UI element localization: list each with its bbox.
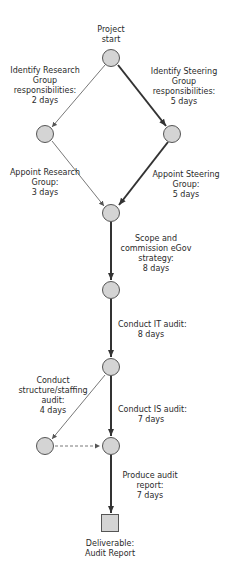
label-it-audit: Conduct IT audit: 8 days [118, 320, 184, 340]
node-research-group [36, 125, 54, 143]
label-is-audit: Conduct IS audit: 7 days [118, 405, 184, 425]
node-merge [102, 204, 120, 222]
label-produce-report: Produce audit report: 7 days [122, 471, 178, 501]
label-identify-steering: Identify Steering Group responsibilities… [143, 67, 225, 107]
label-identify-research: Identify Research Group responsibilities… [5, 66, 85, 106]
node-steering-group [163, 125, 181, 143]
label-project-start: Project start [91, 25, 131, 45]
node-scope-done [102, 281, 120, 299]
node-is-audit-done [102, 437, 120, 455]
node-deliverable [101, 514, 119, 532]
label-deliverable: Deliverable: Audit Report [80, 539, 140, 559]
label-appoint-research: Appoint Research Group: 3 days [5, 168, 85, 198]
label-scope: Scope and commission eGov strategy: 8 da… [120, 234, 192, 274]
node-it-audit-done [102, 358, 120, 376]
label-appoint-steering: Appoint Steering Group: 5 days [146, 170, 226, 200]
node-staffing-audit-done [36, 437, 54, 455]
node-project-start [102, 49, 120, 67]
label-staffing-audit: Conduct structure/staffing audit: 4 days [17, 376, 89, 416]
